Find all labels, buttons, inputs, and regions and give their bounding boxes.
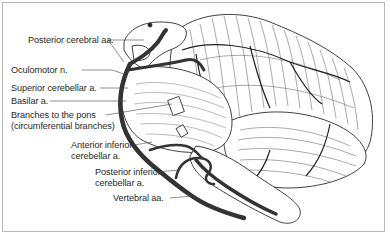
label-superior-cerebellar-artery: Superior cerebellar a. (11, 83, 97, 94)
label-posterior-inferior-cerebellar-artery: Posterior inferior cerebellar a. (95, 167, 161, 189)
label-anterior-inferior-cerebellar-artery: Anterior inferior cerebellar a. (71, 140, 132, 162)
label-basilar-artery: Basilar a. (11, 96, 48, 107)
label-posterior-cerebral-arteries: Posterior cerebral aa. (28, 35, 106, 46)
label-oculomotor-nerve: Oculomotor n. (11, 65, 67, 76)
label-pontine-branches: Branches to the pons (circumferential br… (11, 110, 115, 132)
label-vertebral-arteries: Vertebral aa. (113, 193, 164, 204)
